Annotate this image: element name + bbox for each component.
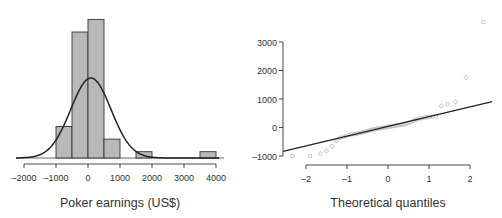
qq-point <box>482 20 486 24</box>
histogram-chart: –2000–100001000200030004000Poker earning… <box>11 19 226 210</box>
x-tick-label: 2 <box>467 174 472 184</box>
qq-reference-line <box>283 102 492 152</box>
y-tick-label: 0 <box>272 123 277 133</box>
x-tick-label: –1000 <box>43 173 68 183</box>
qq-point <box>454 100 458 104</box>
qq-point <box>440 104 444 108</box>
histogram-bar <box>56 127 72 159</box>
x-tick-label: 1000 <box>110 173 130 183</box>
y-tick-label: 3000 <box>257 38 277 48</box>
qq-point <box>319 152 323 156</box>
x-tick-label: 2000 <box>142 173 162 183</box>
qq-point <box>325 149 329 153</box>
x-axis-label: Poker earnings (US$) <box>60 196 180 210</box>
y-tick-label: –1000 <box>252 152 277 162</box>
qq-point <box>464 76 468 80</box>
x-tick-label: 3000 <box>174 173 194 183</box>
y-tick-label: 1000 <box>257 95 277 105</box>
x-tick-label: 0 <box>385 174 390 184</box>
qq-point <box>291 154 295 158</box>
x-tick-label: 4000 <box>206 173 226 183</box>
x-tick-label: –2 <box>301 174 311 184</box>
qq-point <box>446 102 450 106</box>
x-tick-label: 0 <box>85 173 90 183</box>
qq-point <box>308 154 312 158</box>
qq-point <box>330 145 334 149</box>
x-tick-label: –1 <box>342 174 352 184</box>
x-axis-label: Theoretical quantiles <box>330 196 445 210</box>
histogram-bar <box>200 152 216 158</box>
x-tick-label: –2000 <box>11 173 36 183</box>
histogram-bar <box>104 139 120 158</box>
y-tick-label: 2000 <box>257 66 277 76</box>
x-tick-label: 1 <box>426 174 431 184</box>
histogram-bar <box>72 32 88 158</box>
qq-plot-chart: –10000100020003000–2–1012Theoretical qua… <box>252 20 492 210</box>
